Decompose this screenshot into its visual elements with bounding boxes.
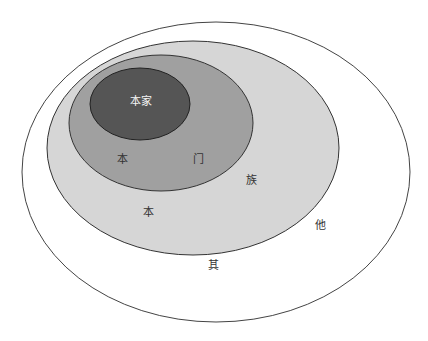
label-benzu-ben: 本	[143, 203, 154, 219]
label-benjia: 本家	[130, 92, 152, 108]
label-benzu-zu: 族	[246, 171, 257, 187]
label-benmen-men: 门	[193, 150, 204, 166]
nested-ellipse-diagram	[0, 0, 428, 341]
label-benmen-ben: 本	[117, 150, 128, 166]
label-qita-ta: 他	[315, 216, 326, 232]
label-qita-qi: 其	[208, 256, 219, 272]
